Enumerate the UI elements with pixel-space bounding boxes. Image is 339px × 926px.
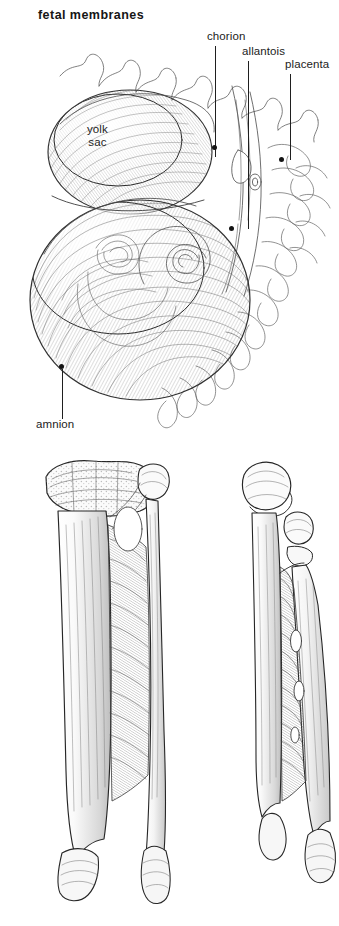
leader-dot-amnion [59,364,64,369]
label-allantois: allantois [242,45,285,58]
panel-interosseous-membranes: tibia fibula inter- osseous membrane of … [0,455,339,926]
leader-dot-chorion [212,145,217,150]
page-title: fetal membranes [38,8,144,22]
leader-dot-placenta [279,157,284,162]
leader-allantois [248,61,249,229]
illustration-plate: fetal membranes yolk sac chorion allanto… [0,0,339,926]
leader-placenta [290,74,291,160]
label-amnion: amnion [36,418,74,431]
leader-dot-allantois [229,226,234,231]
panel-fetal-membranes: fetal membranes yolk sac chorion allanto… [0,0,339,460]
label-chorion: chorion [207,30,245,43]
leader-amnion [62,369,63,419]
label-yolk-sac: yolk sac [87,123,108,149]
interosseous-membranes-artwork [0,455,339,926]
label-placenta: placenta [285,58,329,71]
leader-chorion [215,46,216,157]
